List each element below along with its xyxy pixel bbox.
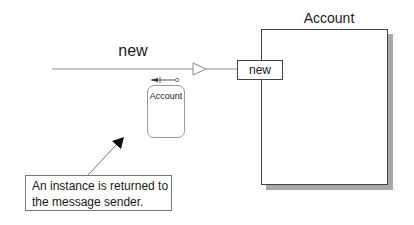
instance-box[interactable]: Account: [147, 85, 185, 138]
callout-box: An instance is returned to the message s…: [25, 175, 172, 211]
callout-line-1: An instance is returned to: [32, 178, 171, 194]
method-box-new[interactable]: new: [237, 60, 283, 80]
callout-line-2: the message sender.: [32, 194, 171, 210]
callout-pointer-line: [88, 143, 118, 175]
return-arrow-icon: [150, 77, 179, 83]
open-arrowhead-icon: [193, 63, 206, 75]
message-label: new: [112, 42, 154, 60]
class-box[interactable]: [261, 29, 388, 185]
instance-label: Account: [148, 91, 184, 101]
class-title: Account: [291, 10, 367, 26]
